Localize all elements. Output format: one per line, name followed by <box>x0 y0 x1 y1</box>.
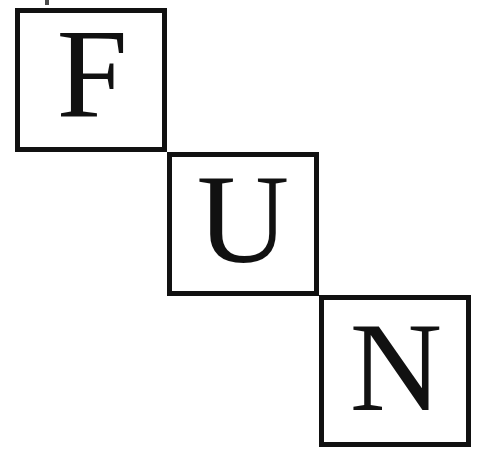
letter-blocks-canvas: F U N <box>0 0 487 460</box>
scan-mark-artifact <box>45 0 49 5</box>
letter-glyph-n: N <box>350 303 442 431</box>
letter-glyph-u: U <box>197 155 289 283</box>
letter-block-n[interactable]: N <box>319 295 471 447</box>
letter-block-f[interactable]: F <box>15 8 167 152</box>
letter-block-u[interactable]: U <box>167 152 319 296</box>
letter-glyph-f: F <box>56 9 127 137</box>
